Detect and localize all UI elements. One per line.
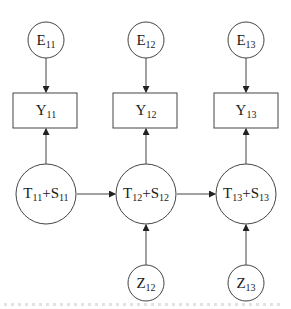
label-base: T (23, 185, 32, 201)
label-subscript: 13 (259, 192, 269, 203)
label-subscript: 13 (246, 39, 256, 50)
error-label-e13: E13 (236, 33, 255, 50)
label-base: Y (36, 102, 47, 118)
plus-sign: + (242, 185, 250, 201)
label-subscript: 11 (59, 192, 69, 203)
observed-label-y13: Y13 (236, 103, 257, 120)
latent-label-t11-s11: T11+S11 (23, 186, 68, 203)
label-base: E (136, 32, 145, 48)
label-base: Z (136, 275, 145, 291)
label-base: E (236, 32, 245, 48)
label-base: Z (236, 275, 245, 291)
observed-label-y11: Y11 (36, 103, 56, 120)
label-base: S (251, 185, 259, 201)
label-subscript: 12 (159, 192, 169, 203)
label-base: S (151, 185, 159, 201)
label-subscript: 13 (246, 109, 256, 120)
covariate-label-z12: Z12 (136, 276, 155, 293)
latent-label-t13-s13: T13+S13 (223, 186, 269, 203)
label-base: Y (136, 102, 147, 118)
label-subscript: 13 (232, 192, 242, 203)
observed-label-y12: Y12 (136, 103, 157, 120)
label-subscript: 12 (132, 192, 142, 203)
plus-sign: + (142, 185, 150, 201)
label-subscript: 12 (146, 109, 156, 120)
error-label-e12: E12 (136, 33, 155, 50)
label-subscript: 11 (46, 39, 56, 50)
label-subscript: 12 (146, 39, 156, 50)
label-base: T (223, 185, 232, 201)
label-base: T (123, 185, 132, 201)
label-base: E (37, 32, 46, 48)
label-base: Y (236, 102, 247, 118)
error-label-e11: E11 (37, 33, 56, 50)
label-subscript: 13 (246, 282, 256, 293)
covariate-label-z13: Z13 (236, 276, 255, 293)
label-subscript: 12 (146, 282, 156, 293)
label-subscript: 11 (47, 109, 57, 120)
latent-label-t12-s12: T12+S12 (123, 186, 169, 203)
label-base: S (51, 185, 59, 201)
label-subscript: 11 (33, 192, 43, 203)
cropped-caption-residue (4, 303, 284, 306)
